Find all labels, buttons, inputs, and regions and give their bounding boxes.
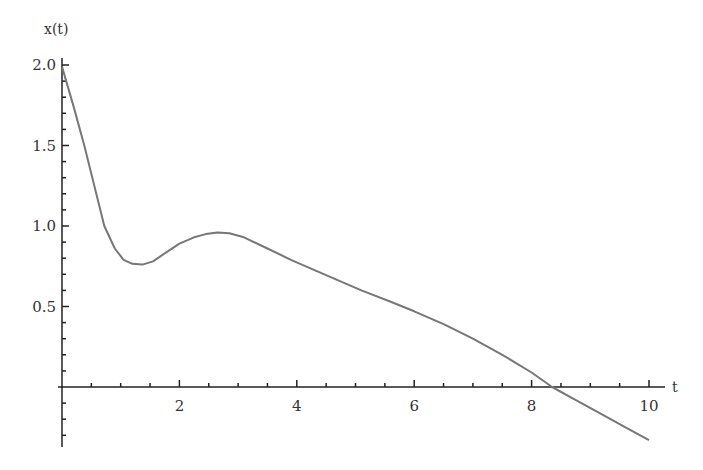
tick-labels: 2468100.51.01.52.0 xyxy=(32,56,658,415)
y-tick-label: 0.5 xyxy=(32,298,56,316)
x-tick-label: 2 xyxy=(175,397,185,415)
x-tick-label: 4 xyxy=(292,397,302,415)
x-tick-label: 6 xyxy=(409,397,419,415)
y-tick-label: 1.0 xyxy=(32,217,56,235)
y-tick-label: 2.0 xyxy=(32,56,56,74)
line-chart: 2468100.51.01.52.0 x(t) t xyxy=(0,0,703,470)
x-tick-label: 10 xyxy=(639,397,658,415)
x-axis-label: t xyxy=(672,379,678,395)
x-tick-label: 8 xyxy=(527,397,537,415)
axes xyxy=(58,58,665,447)
y-tick-label: 1.5 xyxy=(32,137,56,155)
y-axis-label: x(t) xyxy=(44,21,68,37)
axis-ticks xyxy=(62,65,649,435)
